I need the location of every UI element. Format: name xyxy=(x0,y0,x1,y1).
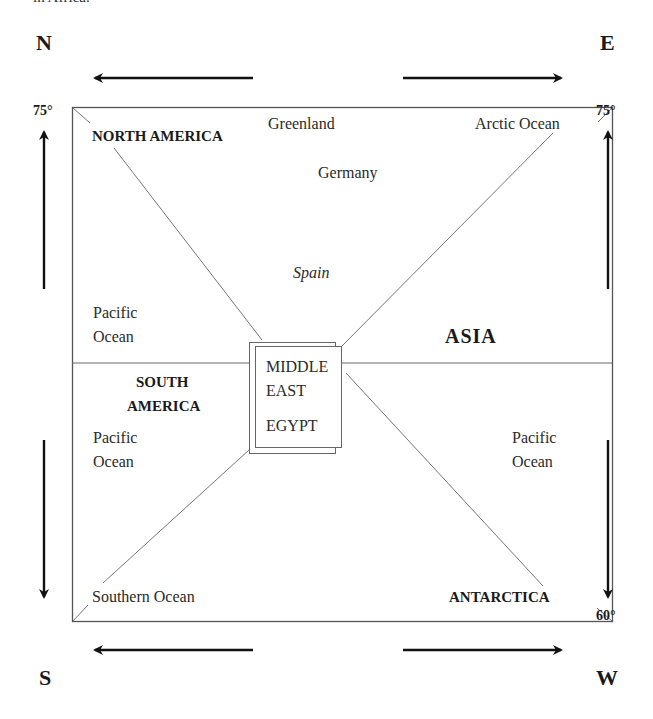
compass-south: S xyxy=(39,665,51,691)
region-south-america-line1: SOUTH xyxy=(136,374,189,391)
place-greenland: Greenland xyxy=(268,115,335,133)
place-germany: Germany xyxy=(318,164,378,182)
map-frame xyxy=(73,108,613,622)
diagonal-nw-a xyxy=(73,108,90,123)
latitude-top-right: 75° xyxy=(596,103,616,119)
latitude-bottom-right: 60° xyxy=(596,608,616,624)
diagonal-sw-b xyxy=(73,605,88,621)
region-north-america: NORTH AMERICA xyxy=(92,128,223,145)
latitude-top-left: 75° xyxy=(33,103,53,119)
compass-north: N xyxy=(36,30,52,56)
diagonal-se-a xyxy=(346,373,543,586)
place-pacific-se-line2: Ocean xyxy=(512,453,553,471)
place-pacific-nw-line2: Ocean xyxy=(93,328,134,346)
center-label-middle: MIDDLE xyxy=(266,356,328,377)
place-southern-ocean: Southern Ocean xyxy=(92,588,195,606)
place-arctic-ocean: Arctic Ocean xyxy=(475,115,560,133)
place-spain: Spain xyxy=(293,264,329,282)
compass-east: E xyxy=(600,30,615,56)
center-label-east: EAST xyxy=(266,380,306,401)
center-label-egypt: EGYPT xyxy=(266,415,318,436)
region-south-america-line2: AMERICA xyxy=(127,398,200,415)
region-asia: ASIA xyxy=(445,325,497,348)
place-pacific-nw-line1: Pacific xyxy=(93,304,137,322)
compass-west: W xyxy=(596,665,618,691)
region-antarctica: ANTARCTICA xyxy=(449,589,550,606)
place-pacific-sw-line2: Ocean xyxy=(93,453,134,471)
place-pacific-sw-line1: Pacific xyxy=(93,429,137,447)
place-pacific-se-line1: Pacific xyxy=(512,429,556,447)
